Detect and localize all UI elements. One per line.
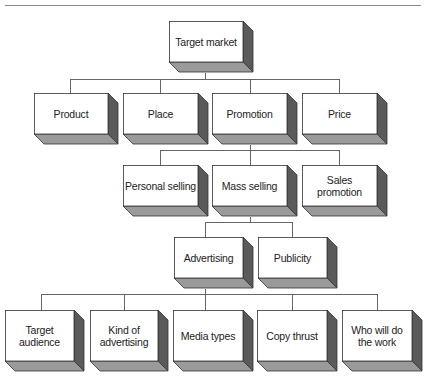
- box-copy-thrust: Copy thrust: [257, 310, 337, 372]
- box-product: Product: [34, 93, 118, 145]
- connector-line: [41, 294, 42, 310]
- header-rule: [5, 5, 421, 6]
- box-label: Personal selling: [123, 165, 198, 206]
- box-label: Sales promotion: [302, 165, 377, 206]
- connector-line: [70, 79, 339, 80]
- connector-line: [205, 222, 292, 223]
- box-target-audience: Target audience: [5, 310, 84, 372]
- box-who-will-do-the-work: Who will do the work: [342, 310, 422, 372]
- connector-line: [205, 294, 206, 310]
- connector-line: [377, 294, 378, 310]
- box-label: Who will do the work: [342, 310, 412, 361]
- box-label: Target audience: [5, 310, 74, 361]
- connector-line: [124, 294, 125, 310]
- box-place: Place: [123, 93, 208, 145]
- connector-line: [41, 294, 377, 295]
- connector-line: [339, 150, 340, 165]
- box-personal-selling: Personal selling: [123, 165, 208, 217]
- box-label: Copy thrust: [257, 310, 327, 361]
- box-label: Product: [34, 93, 108, 134]
- box-label: Price: [302, 93, 377, 134]
- box-label: Place: [123, 93, 198, 134]
- box-label: Advertising: [174, 237, 243, 278]
- connector-line: [160, 79, 161, 93]
- box-publicity: Publicity: [258, 237, 337, 289]
- box-target-market: Target market: [169, 21, 253, 73]
- box-kind-of-advertising: Kind of advertising: [90, 310, 168, 372]
- box-media-types: Media types: [173, 310, 253, 372]
- box-sales-promotion: Sales promotion: [302, 165, 387, 217]
- connector-line: [160, 150, 161, 165]
- connector-line: [339, 79, 340, 93]
- connector-line: [250, 150, 251, 165]
- box-label: Mass selling: [212, 165, 287, 206]
- box-promotion: Promotion: [212, 93, 297, 145]
- connector-line: [70, 79, 71, 93]
- box-mass-selling: Mass selling: [212, 165, 297, 217]
- box-label: Kind of advertising: [90, 310, 158, 361]
- box-label: Publicity: [258, 237, 327, 278]
- box-price: Price: [302, 93, 387, 145]
- connector-line: [205, 222, 206, 237]
- connector-line: [292, 222, 293, 237]
- connector-line: [250, 79, 251, 93]
- box-label: Promotion: [212, 93, 287, 134]
- box-label: Target market: [169, 21, 243, 62]
- box-label: Media types: [173, 310, 243, 361]
- connector-line: [292, 294, 293, 310]
- box-advertising: Advertising: [174, 237, 253, 289]
